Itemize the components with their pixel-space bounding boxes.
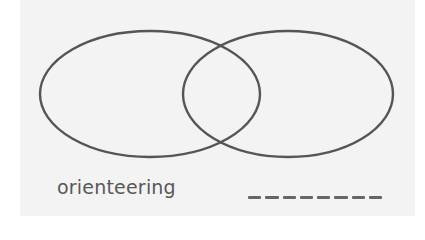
blank-dash — [334, 196, 347, 199]
blank-dash — [248, 196, 261, 199]
blank-dash — [265, 196, 278, 199]
answer-blank[interactable] — [248, 196, 382, 199]
right-set-ellipse — [183, 31, 393, 157]
left-set-ellipse — [40, 31, 260, 157]
blank-dash — [352, 196, 365, 199]
blank-dash — [283, 196, 296, 199]
left-word-label: orienteering — [57, 176, 176, 198]
blank-dash — [317, 196, 330, 199]
blank-dash — [369, 196, 382, 199]
blank-dash — [300, 196, 313, 199]
